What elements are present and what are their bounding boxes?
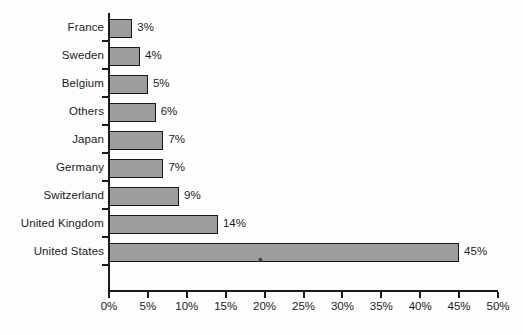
bar (109, 159, 163, 178)
category-label: Switzerland (43, 189, 104, 201)
bar-row: Belgium5% (0, 71, 523, 99)
category-label: Germany (56, 161, 104, 173)
bar-row: Switzerland9% (0, 183, 523, 211)
bar (109, 131, 163, 150)
value-axis-tick (186, 292, 188, 298)
bar (109, 187, 179, 206)
value-axis-tick-label: 20% (253, 300, 276, 312)
value-axis-tick-label: 5% (140, 300, 157, 312)
bar-value-label: 7% (168, 133, 185, 145)
value-axis-tick-label: 45% (448, 300, 471, 312)
category-label: Others (69, 105, 104, 117)
bar-value-label: 7% (168, 161, 185, 173)
category-axis-tick (102, 124, 109, 126)
category-axis-tick (102, 96, 109, 98)
category-axis-tick (102, 264, 109, 266)
bar-row: United Kingdom14% (0, 211, 523, 239)
category-axis-tick (102, 236, 109, 238)
bar-value-label: 4% (145, 49, 162, 61)
bar-row: France3% (0, 15, 523, 43)
value-axis-tick (303, 292, 305, 298)
category-label: United Kingdom (21, 217, 104, 229)
bar-value-label: 3% (137, 21, 154, 33)
bar-row: Germany7% (0, 155, 523, 183)
bar (109, 103, 156, 122)
bar-value-label: 14% (223, 217, 246, 229)
bar-value-label: 45% (464, 245, 487, 257)
category-label: United States (34, 245, 104, 257)
bar (109, 47, 140, 66)
value-axis-tick (419, 292, 421, 298)
value-axis-tick-label: 30% (331, 300, 354, 312)
bar-value-label: 5% (153, 77, 170, 89)
value-axis-tick (147, 292, 149, 298)
category-label: Sweden (62, 49, 104, 61)
value-axis-tick (264, 292, 266, 298)
value-axis-tick (458, 292, 460, 298)
value-axis-tick-label: 0% (101, 300, 118, 312)
bar-chart: France3%Sweden4%Belgium5%Others6%Japan7%… (0, 0, 523, 335)
bar-row: Sweden4% (0, 43, 523, 71)
value-axis-tick-label: 50% (486, 300, 509, 312)
value-axis-tick (225, 292, 227, 298)
category-axis-tick (102, 152, 109, 154)
bar (109, 75, 148, 94)
value-axis-tick-label: 25% (292, 300, 315, 312)
category-axis-tick (102, 208, 109, 210)
bar (109, 215, 218, 234)
bar-value-label: 6% (161, 105, 178, 117)
category-axis-tick (102, 180, 109, 182)
bar-row: Japan7% (0, 127, 523, 155)
bar (109, 19, 132, 38)
category-label: Belgium (62, 77, 104, 89)
value-axis-tick-label: 10% (175, 300, 198, 312)
value-axis-tick (497, 292, 499, 298)
category-label: Japan (72, 133, 104, 145)
bar-row: Others6% (0, 99, 523, 127)
value-axis-tick-label: 15% (214, 300, 237, 312)
value-axis-tick (108, 292, 110, 298)
bar-row: United States45% (0, 239, 523, 267)
value-axis-tick (380, 292, 382, 298)
category-axis-tick (102, 40, 109, 42)
bar-value-label: 9% (184, 189, 201, 201)
bar (109, 243, 459, 262)
value-axis-tick (341, 292, 343, 298)
category-axis-tick (102, 68, 109, 70)
category-label: France (68, 21, 104, 33)
value-axis-tick-label: 35% (370, 300, 393, 312)
value-axis-tick-label: 40% (409, 300, 432, 312)
plot-area: France3%Sweden4%Belgium5%Others6%Japan7%… (0, 13, 523, 291)
